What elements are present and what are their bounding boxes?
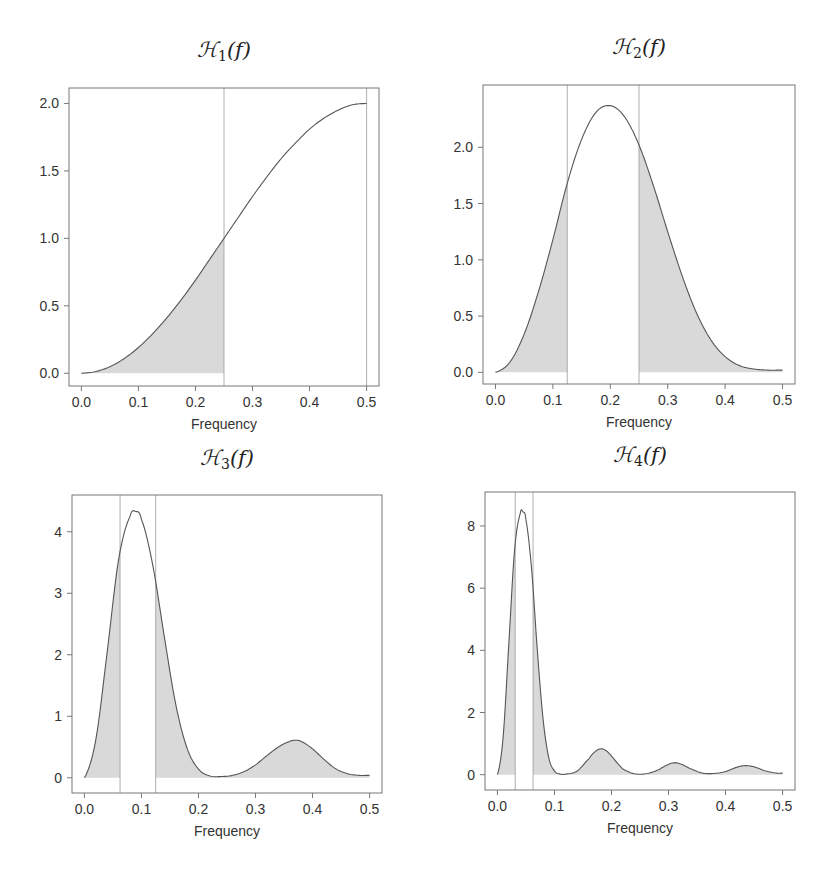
y-tick-label: 1 — [54, 708, 62, 724]
y-tick-label: 0.5 — [454, 308, 474, 324]
x-tick-label: 0.0 — [486, 392, 506, 408]
title-argument: (f) — [643, 443, 667, 467]
y-tick-label: 0.5 — [40, 298, 60, 314]
y-tick-label: 1.5 — [454, 196, 474, 212]
shaded-region — [639, 145, 783, 372]
x-tick-label: 0.2 — [602, 798, 622, 814]
transfer-curve — [84, 511, 369, 778]
y-tick-label: 0.0 — [40, 365, 60, 381]
shaded-region — [533, 588, 783, 775]
panel-title: ℋ3(f) — [200, 446, 254, 472]
x-tick-label: 0.5 — [773, 392, 793, 408]
x-tick-label: 0.5 — [773, 798, 793, 814]
title-argument: (f) — [227, 38, 251, 62]
figure-canvas: ℋ1(f) 0.00.10.20.30.40.50.00.51.01.52.0 … — [0, 0, 823, 872]
y-tick-label: 2 — [54, 647, 62, 663]
y-tick-label: 1.0 — [454, 252, 474, 268]
plot-area: 0.00.10.20.30.40.501234 — [54, 495, 382, 817]
figure-2x2-grid: ℋ1(f) 0.00.10.20.30.40.50.00.51.01.52.0 … — [0, 0, 823, 872]
y-tick-label: 0.0 — [454, 364, 474, 380]
panel-h4: ℋ4(f) 0.00.10.20.30.40.502468 Frequency — [467, 443, 795, 836]
panel-h3: ℋ3(f) 0.00.10.20.30.40.501234 Frequency — [54, 446, 382, 839]
x-tick-label: 0.4 — [303, 801, 323, 817]
x-tick-label: 0.2 — [189, 801, 209, 817]
shaded-region — [495, 183, 567, 372]
y-tick-label: 6 — [467, 580, 475, 596]
x-tick-label: 0.1 — [543, 392, 563, 408]
y-tick-label: 3 — [54, 585, 62, 601]
shaded-region — [81, 238, 224, 373]
y-tick-label: 0 — [467, 767, 475, 783]
y-tick-label: 1.0 — [40, 230, 60, 246]
x-tick-label: 0.3 — [659, 798, 679, 814]
plot-area: 0.00.10.20.30.40.50.00.51.01.52.0 — [454, 85, 795, 408]
panel-title: ℋ4(f) — [613, 443, 667, 469]
panel-h1: ℋ1(f) 0.00.10.20.30.40.50.00.51.01.52.0 … — [40, 38, 379, 432]
title-subscript: 1 — [218, 48, 227, 64]
title-argument: (f) — [642, 35, 666, 59]
x-tick-label: 0.0 — [488, 798, 508, 814]
x-tick-label: 0.0 — [72, 394, 92, 410]
x-axis-label: Frequency — [607, 820, 673, 836]
y-tick-label: 4 — [467, 642, 475, 658]
x-tick-label: 0.1 — [132, 801, 152, 817]
y-tick-label: 2.0 — [40, 95, 60, 111]
panel-title: ℋ2(f) — [612, 35, 666, 61]
x-tick-label: 0.0 — [75, 801, 95, 817]
panel-h2: ℋ2(f) 0.00.10.20.30.40.50.00.51.01.52.0 … — [454, 35, 795, 430]
x-tick-label: 0.5 — [360, 801, 380, 817]
x-tick-label: 0.1 — [129, 394, 149, 410]
x-tick-label: 0.3 — [658, 392, 678, 408]
x-tick-label: 0.4 — [716, 798, 736, 814]
x-tick-label: 0.3 — [243, 394, 263, 410]
title-argument: (f) — [230, 446, 254, 470]
x-axis-label: Frequency — [606, 414, 672, 430]
x-axis-label: Frequency — [191, 416, 257, 432]
panel-title: ℋ1(f) — [197, 38, 251, 64]
x-tick-label: 0.4 — [300, 394, 320, 410]
x-axis-label: Frequency — [194, 823, 260, 839]
x-tick-label: 0.5 — [357, 394, 377, 410]
y-tick-label: 4 — [54, 524, 62, 540]
y-tick-label: 2.0 — [454, 139, 474, 155]
title-subscript: 4 — [634, 453, 643, 469]
shaded-region — [156, 582, 370, 778]
x-tick-label: 0.1 — [545, 798, 565, 814]
x-tick-label: 0.2 — [186, 394, 206, 410]
y-tick-label: 2 — [467, 705, 475, 721]
title-subscript: 3 — [221, 456, 230, 472]
x-tick-label: 0.2 — [601, 392, 621, 408]
title-subscript: 2 — [633, 45, 642, 61]
x-tick-label: 0.3 — [246, 801, 266, 817]
x-tick-label: 0.4 — [715, 392, 735, 408]
y-tick-label: 8 — [467, 518, 475, 534]
plot-area: 0.00.10.20.30.40.50.00.51.01.52.0 — [40, 88, 379, 410]
plot-area: 0.00.10.20.30.40.502468 — [467, 492, 795, 814]
y-tick-label: 0 — [54, 770, 62, 786]
y-tick-label: 1.5 — [40, 163, 60, 179]
plot-frame — [485, 492, 795, 790]
